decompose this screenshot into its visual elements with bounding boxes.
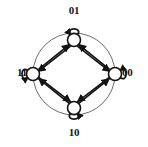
node-00[interactable]	[109, 68, 122, 81]
node-01[interactable]	[68, 34, 81, 47]
edge-10-to-11	[39, 79, 70, 104]
edge-11-to-10	[38, 77, 71, 102]
edge-10-to-00	[78, 79, 109, 104]
node-label-00: 00	[122, 67, 142, 78]
edge-00-to-01	[78, 44, 109, 69]
edge-group-bottom-right	[77, 77, 110, 104]
node-10[interactable]	[68, 102, 81, 115]
edge-01-to-11	[38, 46, 71, 71]
edge-group-bottom-left	[38, 77, 71, 104]
state-transition-diagram: 01 11 00 10	[0, 0, 148, 147]
node-label-10: 10	[61, 127, 87, 138]
node-11[interactable]	[27, 68, 40, 81]
edge-group-top-left	[38, 44, 71, 71]
edge-00-to-10	[77, 77, 110, 102]
edge-11-to-01	[39, 44, 70, 69]
node-label-01: 01	[61, 5, 87, 16]
edge-group-top-right	[77, 44, 110, 71]
edge-01-to-00	[77, 46, 110, 71]
node-label-11: 11	[9, 67, 27, 78]
